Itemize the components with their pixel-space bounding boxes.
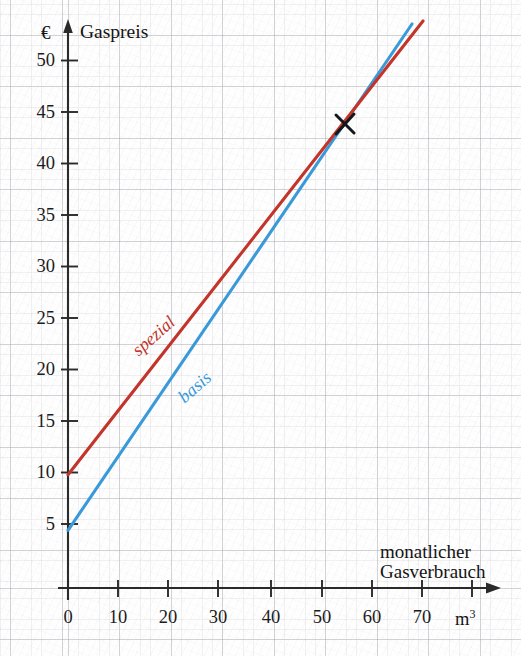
x-tick-label: 70 <box>402 608 442 627</box>
y-tick-label: 20 <box>10 360 55 379</box>
y-tick-label: 30 <box>10 257 55 276</box>
x-tick-label: 60 <box>352 608 392 627</box>
y-tick-label: 40 <box>10 154 55 173</box>
euro-currency-symbol: € <box>41 22 51 44</box>
x-tick-label: 10 <box>98 608 138 627</box>
x-axis-title-line-1: monatlicher <box>380 541 471 562</box>
x-axis-unit-exponent: 3 <box>469 607 475 621</box>
x-tick-label: 0 <box>48 608 88 627</box>
x-tick-label: 50 <box>302 608 342 627</box>
y-tick-label: 50 <box>10 51 55 70</box>
x-tick-label: 40 <box>251 608 291 627</box>
y-tick-label: 10 <box>10 463 55 482</box>
y-tick-label: 5 <box>10 515 55 534</box>
x-axis <box>58 583 501 594</box>
y-axis-ticks <box>61 61 78 525</box>
y-axis-title: Gaspreis <box>80 21 148 43</box>
chart-canvas: 50 45 40 35 30 25 20 15 10 5 0 10 20 30 … <box>0 0 521 656</box>
intersection-marker-icon <box>336 114 354 134</box>
x-tick-label: 30 <box>198 608 238 627</box>
y-tick-label: 45 <box>10 103 55 122</box>
y-tick-label: 25 <box>10 309 55 328</box>
y-tick-label: 35 <box>10 206 55 225</box>
y-tick-label: 15 <box>10 412 55 431</box>
x-tick-label: 20 <box>148 608 188 627</box>
x-axis-title-line-2: Gasverbrauch <box>380 561 486 582</box>
x-axis-unit-base: m <box>455 609 469 629</box>
series-line-spezial <box>68 21 423 475</box>
x-axis-unit-label: m3 <box>455 607 475 630</box>
y-axis <box>63 19 73 600</box>
